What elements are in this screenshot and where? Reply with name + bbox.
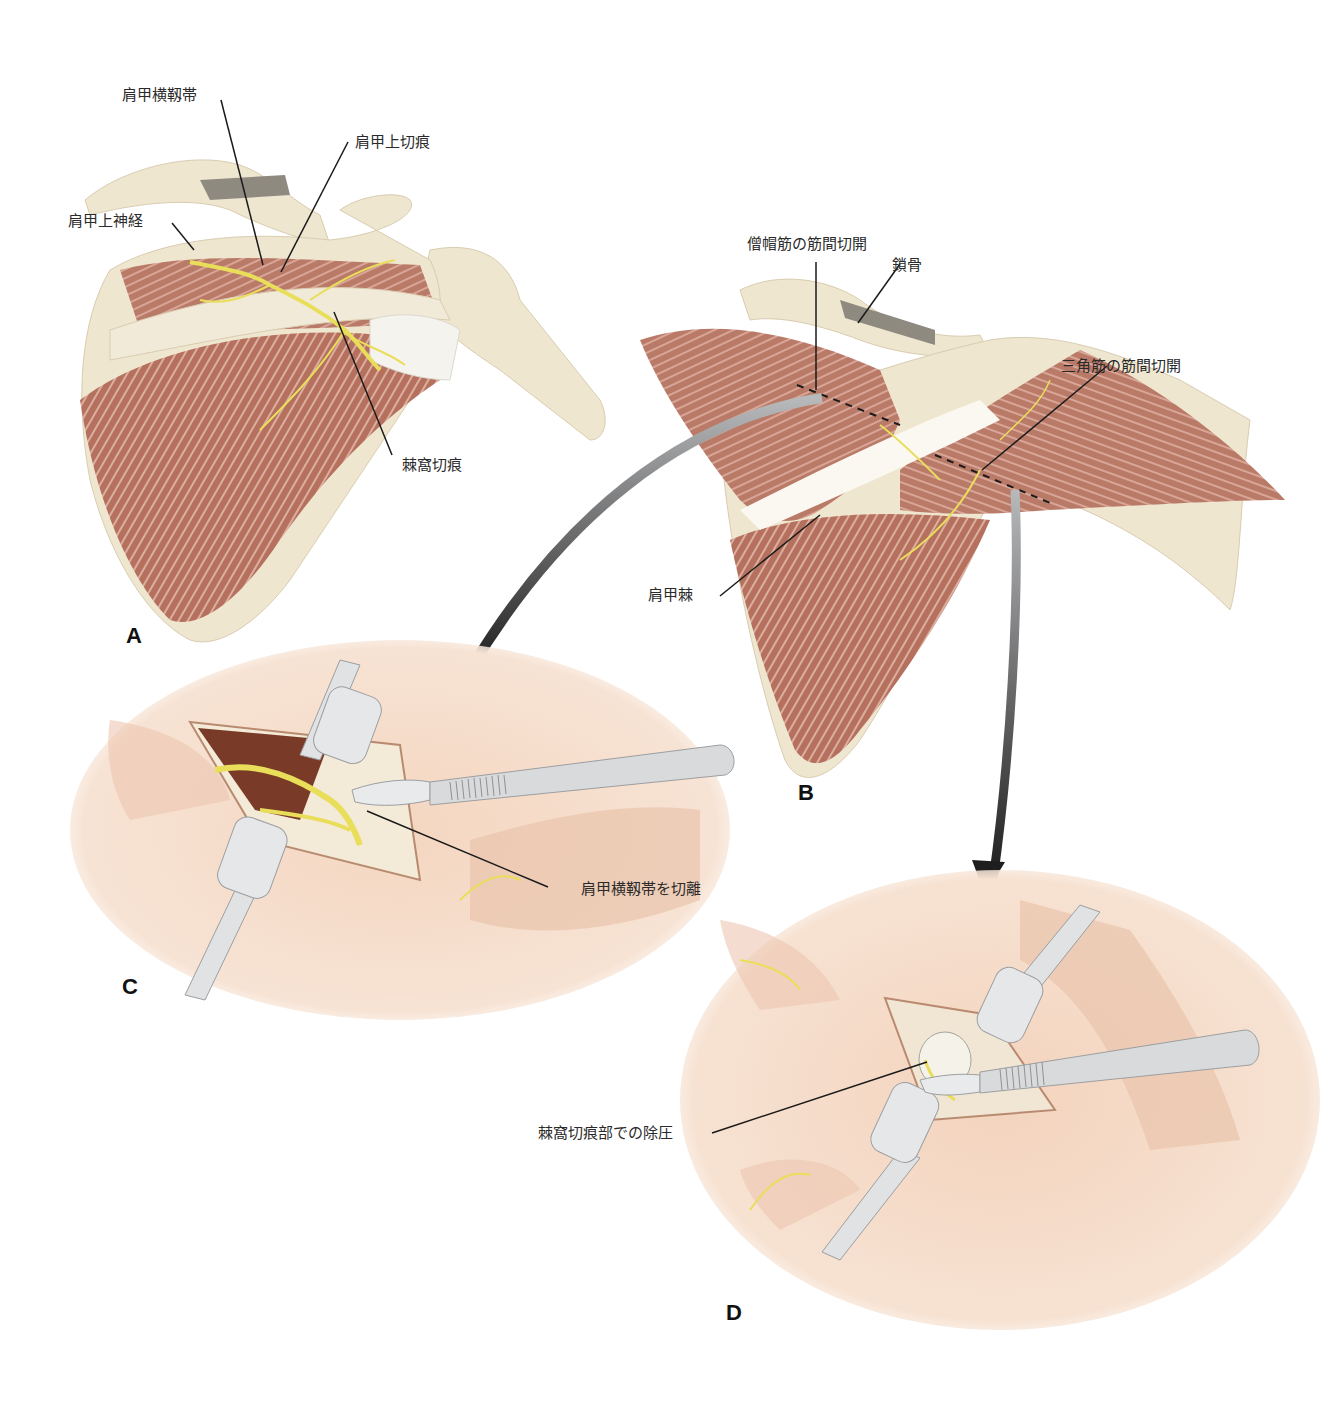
panel-letter-c: C [122, 974, 138, 1000]
suprascapular-nerve-decompression-figure: 肩甲横靱帯 肩甲上切痕 肩甲上神経 棘窩切痕 僧帽筋の筋間切開 鎖骨 三角筋の筋… [0, 0, 1331, 1411]
panel-d-surgical-view [680, 870, 1320, 1330]
panel-letter-b: B [798, 780, 814, 806]
clavicle-bone [85, 160, 330, 245]
label-deltoid-split: 三角筋の筋間切開 [1061, 357, 1181, 375]
infraspinatus-muscle [730, 514, 990, 763]
label-clavicle: 鎖骨 [892, 256, 922, 274]
panel-a-scapula-illustration [80, 100, 605, 642]
label-scapular-spine: 肩甲棘 [648, 586, 693, 604]
label-suprascapular-notch: 肩甲上切痕 [355, 133, 430, 151]
label-trapezius-split: 僧帽筋の筋間切開 [747, 235, 867, 253]
label-release-ligament: 肩甲横靱帯を切離 [581, 880, 701, 898]
panel-letter-a: A [126, 623, 142, 649]
label-spinoglenoid-notch: 棘窩切痕 [402, 456, 462, 474]
label-transverse-scapular-ligament: 肩甲横靱帯 [122, 86, 197, 104]
panel-b-muscle-split-illustration [640, 262, 1285, 777]
panel-letter-d: D [726, 1300, 742, 1326]
label-decompression: 棘窩切痕部での除圧 [538, 1124, 673, 1142]
panel-c-surgical-view [70, 640, 734, 1020]
label-suprascapular-nerve: 肩甲上神経 [68, 212, 143, 230]
arrow-b-to-d [993, 490, 1016, 880]
